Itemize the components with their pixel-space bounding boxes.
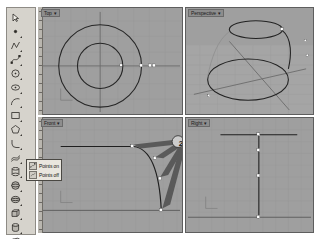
- viewport-title-label: Right: [191, 120, 202, 126]
- cylinder-icon[interactable]: [9, 221, 22, 234]
- ruler-tick: [39, 101, 42, 102]
- flyout-indicator-icon: [20, 218, 22, 220]
- ruler-tick: [39, 220, 42, 221]
- circle-icon[interactable]: [9, 67, 22, 80]
- ruler-tick: [39, 29, 42, 30]
- arrow-select-icon[interactable]: [9, 11, 22, 24]
- ruler-tick: [39, 157, 42, 158]
- chevron-down-icon[interactable]: ▾: [218, 11, 221, 16]
- chevron-down-icon[interactable]: ▾: [204, 121, 207, 126]
- flyout-indicator-icon: [20, 190, 22, 192]
- flyout-indicator-icon: [20, 64, 22, 66]
- ruler-tick: [39, 65, 42, 66]
- flyout-indicator-icon: [20, 134, 22, 136]
- rhino-application-window: Top ▾: [0, 0, 320, 239]
- viewport-title-label: Front: [44, 120, 55, 126]
- ruler-tick: [39, 229, 42, 230]
- viewport-right-canvas[interactable]: [186, 118, 313, 232]
- viewport-front-title[interactable]: Front ▾: [41, 119, 63, 127]
- ruler-tick: [39, 56, 42, 57]
- viewport-right-title[interactable]: Right ▾: [188, 119, 210, 127]
- flyout-indicator-icon: [20, 36, 22, 38]
- flyout-item-label: Points off: [39, 172, 59, 178]
- ruler-tick: [39, 184, 42, 185]
- flyout-indicator-icon: [20, 50, 22, 52]
- points-on-icon: [29, 162, 37, 170]
- points-flyout[interactable]: Points onPoints off: [26, 159, 62, 181]
- ruler-tick: [39, 130, 42, 131]
- flyout-indicator-icon: [20, 120, 22, 122]
- ellipse-icon[interactable]: [9, 81, 22, 94]
- viewport-title-label: Top: [44, 10, 52, 16]
- main-modeling-toolbar[interactable]: [6, 7, 36, 235]
- sphere-icon[interactable]: [9, 179, 22, 192]
- flyout-indicator-icon: [20, 204, 22, 206]
- viewport-perspective-canvas[interactable]: [186, 8, 313, 114]
- chevron-down-icon[interactable]: ▾: [57, 121, 60, 126]
- ruler-tick: [39, 110, 42, 111]
- ellipsoid-icon[interactable]: [9, 193, 22, 206]
- polygon-icon[interactable]: [9, 123, 22, 136]
- rectangle-icon[interactable]: [9, 109, 22, 122]
- flyout-item-points-on[interactable]: Points on: [28, 161, 60, 170]
- chevron-down-icon[interactable]: ▾: [54, 11, 57, 16]
- points-off-icon: [29, 171, 37, 179]
- ruler-tick: [39, 83, 42, 84]
- flyout-item-points-off[interactable]: Points off: [28, 170, 60, 179]
- boolean-union-icon[interactable]: [9, 235, 22, 240]
- ruler-top: [38, 7, 43, 115]
- ruler-tick: [39, 193, 42, 194]
- ruler-tick: [39, 211, 42, 212]
- ruler-tick: [39, 148, 42, 149]
- ruler-tick: [39, 92, 42, 93]
- ground-plane: [186, 45, 313, 114]
- viewport-top[interactable]: Top ▾: [38, 7, 183, 115]
- step-marker-label: 2: [175, 137, 183, 149]
- flyout-indicator-icon: [20, 92, 22, 94]
- flyout-indicator-icon: [20, 176, 22, 178]
- curve-fillet-icon[interactable]: [9, 137, 22, 150]
- dot-point-icon[interactable]: [9, 25, 22, 38]
- viewport-perspective-title[interactable]: Perspective ▾: [188, 9, 224, 17]
- ruler-tick: [39, 47, 42, 48]
- flyout-indicator-icon: [20, 148, 22, 150]
- viewport-right[interactable]: Right ▾: [185, 117, 314, 233]
- viewport-top-title[interactable]: Top ▾: [41, 9, 60, 17]
- box-icon[interactable]: [9, 207, 22, 220]
- flyout-indicator-icon: [20, 162, 22, 164]
- flyout-item-label: Points on: [39, 163, 59, 169]
- viewport-perspective[interactable]: Perspective ▾: [185, 7, 314, 115]
- ruler-tick: [39, 20, 42, 21]
- flyout-indicator-icon: [20, 232, 22, 234]
- arc-icon[interactable]: [9, 95, 22, 108]
- ruler-tick: [39, 139, 42, 140]
- ruler-tick: [39, 74, 42, 75]
- flyout-indicator-icon: [20, 106, 22, 108]
- polyline-icon[interactable]: [9, 39, 22, 52]
- flyout-indicator-icon: [20, 78, 22, 80]
- viewport-title-label: Perspective: [191, 10, 216, 16]
- ruler-tick: [39, 202, 42, 203]
- curve-control-point-icon[interactable]: [9, 53, 22, 66]
- ruler-tick: [39, 38, 42, 39]
- viewport-top-canvas[interactable]: [39, 8, 182, 114]
- loft-surface-icon[interactable]: [9, 165, 22, 178]
- surface-edge-icon[interactable]: [9, 151, 22, 164]
